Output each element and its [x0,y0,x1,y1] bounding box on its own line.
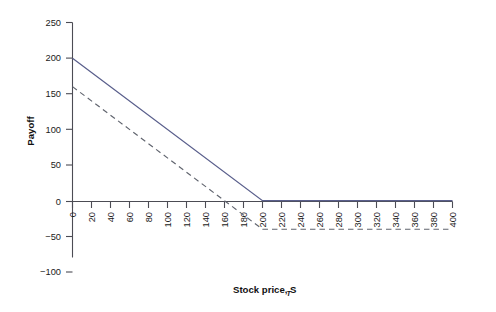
payoff-chart-plot: 250 200 150 100 50 0 −50 −100 [0,0,496,312]
y-tick-marks [66,23,73,273]
x-tick-label: 280 [334,212,344,228]
x-tick-label: 300 [353,212,363,228]
x-tick-label: 140 [201,212,211,228]
x-tick-label: 120 [182,212,192,228]
x-tick-label: 20 [87,212,97,222]
x-tick-label: 40 [106,212,116,222]
y-axis-title: Payoff [25,116,36,146]
x-axis-title-subscript: T [287,289,292,298]
x-tick-label: 400 [448,212,458,228]
y-tick-label: −100 [40,267,61,277]
y-tick-labels: 250 200 150 100 50 0 −50 −100 [40,18,61,278]
y-tick-label: 50 [51,160,61,170]
x-tick-label: 360 [410,212,420,228]
x-tick-label: 200 [258,212,268,228]
x-tick-label: 100 [163,212,173,228]
x-tick-label: 0 [68,212,78,217]
x-tick-marks [73,202,453,209]
y-tick-label: 150 [45,89,61,99]
y-tick-label: 200 [45,53,61,63]
y-tick-label: 100 [45,125,61,135]
x-tick-label: 240 [296,212,306,228]
y-tick-label: −50 [45,232,61,242]
x-tick-label: 340 [391,212,401,228]
x-tick-label: 60 [125,212,135,222]
x-tick-label: 320 [372,212,382,228]
y-tick-label: 250 [45,18,61,28]
x-axis-title: Stock price, S T [233,284,297,298]
x-tick-label: 160 [220,212,230,228]
chart-figure: 250 200 150 100 50 0 −50 −100 [0,0,496,312]
y-tick-label: 0 [56,197,61,207]
x-tick-label: 380 [429,212,439,228]
x-tick-label: 260 [315,212,325,228]
x-tick-label: 180 [239,212,249,228]
x-tick-labels: 0 20 40 60 80 100 120 140 160 180 200 22… [68,212,458,228]
x-tick-label: 220 [277,212,287,228]
x-tick-label: 80 [144,212,154,222]
